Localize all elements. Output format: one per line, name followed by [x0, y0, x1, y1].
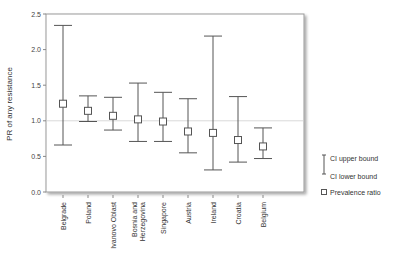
y-tick-label: 1.0 — [31, 117, 41, 124]
x-category-label: Ireland — [210, 202, 217, 224]
x-category-label: Ivanovo Oblast — [110, 202, 117, 249]
legend: CI upper bound CI lower bound Prevalence… — [320, 152, 394, 198]
y-tick-label: 0.0 — [31, 189, 41, 196]
prevalence-ratio-marker — [135, 116, 142, 123]
chart-canvas: 0.00.51.01.52.02.5 BelgradePolandIvanovo… — [0, 0, 394, 262]
y-axis: 0.00.51.01.52.02.5 — [31, 11, 46, 196]
x-category-label: Belgrade — [60, 202, 68, 230]
prevalence-ratio-marker — [160, 118, 167, 125]
legend-ci-lower: CI lower bound — [320, 170, 394, 182]
square-marker-icon — [320, 186, 330, 198]
legend-ci-upper: CI upper bound — [320, 152, 394, 164]
plot-area — [46, 14, 304, 192]
legend-lower-label: CI lower bound — [330, 173, 377, 180]
y-tick-label: 0.5 — [31, 153, 41, 160]
legend-ratio-label: Prevalence ratio — [330, 189, 381, 196]
y-axis-title: PR of any resistance — [5, 67, 14, 141]
prevalence-ratio-marker — [235, 137, 242, 144]
x-axis: BelgradePolandIvanovo OblastBosnia andHe… — [60, 195, 268, 249]
y-tick-label: 2.0 — [31, 46, 41, 53]
prevalence-ratio-marker — [60, 100, 67, 107]
x-category-label: Bosnia andHerzegovina — [131, 202, 147, 241]
x-category-label: Austria — [185, 202, 192, 224]
x-category-label: Croatia — [235, 202, 242, 225]
legend-prevalence-ratio: Prevalence ratio — [320, 186, 394, 198]
prevalence-ratio-marker — [110, 112, 117, 119]
x-category-label: Belgium — [260, 202, 268, 227]
legend-upper-label: CI upper bound — [330, 155, 378, 162]
prevalence-ratio-marker — [85, 107, 92, 114]
x-category-label: Singapore — [160, 202, 168, 234]
prevalence-ratio-marker — [260, 143, 267, 150]
prevalence-ratio-marker — [185, 128, 192, 135]
y-tick-label: 2.5 — [31, 11, 41, 18]
x-category-label: Poland — [85, 202, 92, 224]
y-tick-label: 1.5 — [31, 82, 41, 89]
prevalence-ratio-marker — [210, 129, 217, 136]
ci-upper-icon — [320, 152, 330, 164]
